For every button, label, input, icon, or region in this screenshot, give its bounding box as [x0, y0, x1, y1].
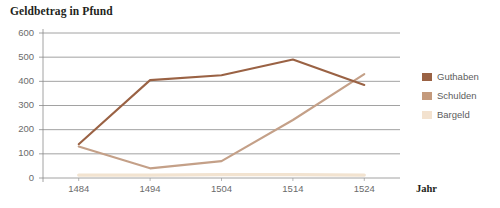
y-tick-label: 300 — [18, 99, 34, 110]
chart-legend: GuthabenSchuldenBargeld — [422, 72, 479, 120]
x-tick-label: 1494 — [140, 183, 161, 194]
y-tick-label: 600 — [18, 27, 34, 38]
legend-item-guthaben: Guthaben — [422, 72, 479, 82]
x-axis-label: Jahr — [416, 183, 437, 194]
x-tick-label: 1504 — [211, 183, 232, 194]
gridlines — [43, 33, 400, 178]
legend-swatch-icon — [422, 92, 432, 100]
legend-label: Bargeld — [437, 110, 470, 120]
x-tick-label: 1484 — [68, 183, 89, 194]
legend-item-bargeld: Bargeld — [422, 110, 479, 120]
y-tick-label: 400 — [18, 75, 34, 86]
y-tick-label: 0 — [29, 172, 34, 183]
x-tick-marks — [79, 178, 365, 181]
y-tick-label: 500 — [18, 51, 34, 62]
legend-swatch-icon — [422, 73, 432, 81]
legend-label: Guthaben — [437, 72, 479, 82]
x-tick-labels: 14841494150415141524 — [68, 183, 375, 194]
line-chart: Geldbetrag in Pfund 0100200300400500600 … — [0, 0, 500, 208]
legend-swatch-icon — [422, 111, 432, 119]
y-tick-labels: 0100200300400500600 — [18, 27, 34, 183]
legend-item-schulden: Schulden — [422, 91, 479, 101]
x-tick-label: 1524 — [354, 183, 375, 194]
legend-label: Schulden — [437, 91, 477, 101]
x-tick-label: 1514 — [282, 183, 303, 194]
series-lines — [79, 60, 365, 176]
y-tick-label: 200 — [18, 123, 34, 134]
y-tick-marks — [39, 33, 43, 178]
y-tick-label: 100 — [18, 147, 34, 158]
